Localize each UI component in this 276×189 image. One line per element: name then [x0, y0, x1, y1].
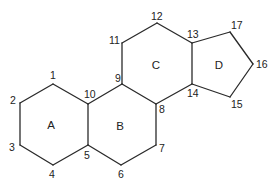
- bond-1-2: [20, 84, 53, 103]
- atom-label-13: 13: [187, 28, 199, 40]
- atom-label-1: 1: [50, 69, 56, 81]
- atom-label-9: 9: [115, 72, 121, 84]
- bond-11-12: [122, 23, 157, 43]
- atom-label-15: 15: [231, 98, 243, 110]
- atom-label-6: 6: [118, 168, 124, 180]
- atom-label-8: 8: [159, 103, 165, 115]
- steroid-diagram: 1234567891011121314151617 ABCD: [0, 0, 276, 189]
- ring-label-b: B: [116, 120, 124, 132]
- ring-label-a: A: [47, 119, 55, 131]
- atom-label-2: 2: [10, 94, 16, 106]
- bond-6-7: [121, 145, 156, 165]
- atom-label-5: 5: [84, 149, 90, 161]
- atom-label-14: 14: [187, 87, 199, 99]
- ring-label-d: D: [215, 59, 223, 71]
- bond-5-6: [88, 145, 121, 165]
- bond-4-5: [53, 145, 88, 165]
- atom-label-4: 4: [49, 168, 55, 180]
- atom-label-11: 11: [109, 34, 120, 46]
- bond-lines: [20, 23, 253, 165]
- atom-label-17: 17: [231, 19, 243, 31]
- atom-label-7: 7: [159, 142, 165, 154]
- bond-17-16: [230, 32, 253, 64]
- atom-label-10: 10: [84, 88, 96, 100]
- atom-label-16: 16: [256, 58, 268, 70]
- bond-3-4: [20, 145, 53, 165]
- atom-label-3: 3: [9, 141, 15, 153]
- bond-10-1: [53, 84, 88, 104]
- bond-8-9: [122, 84, 156, 104]
- atom-label-12: 12: [151, 10, 163, 22]
- bond-16-15: [230, 64, 253, 97]
- ring-label-c: C: [152, 59, 160, 71]
